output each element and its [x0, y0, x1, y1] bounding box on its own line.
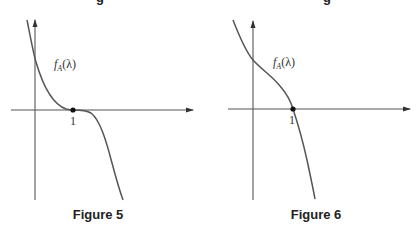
- root-point: [70, 107, 75, 112]
- figure-6: 1 fA(λ) Figure 6: [228, 20, 410, 222]
- tick-label-1: 1: [289, 113, 295, 127]
- figure-caption: Figure 6: [291, 207, 342, 222]
- function-label: fA(λ): [54, 57, 76, 73]
- tick-label-1: 1: [70, 114, 76, 128]
- root-point: [290, 106, 295, 111]
- figure-5: 1 fA(λ) Figure 5: [11, 20, 193, 222]
- figure-caption: Figure 5: [73, 207, 124, 222]
- figures-canvas: g g 1 fA(λ) Figure 5 1 fA(λ) Figure 6: [0, 0, 420, 225]
- clipped-text-fragment: g: [96, 0, 104, 5]
- clipped-text-fragment: g: [323, 0, 331, 5]
- function-label: fA(λ): [273, 55, 295, 71]
